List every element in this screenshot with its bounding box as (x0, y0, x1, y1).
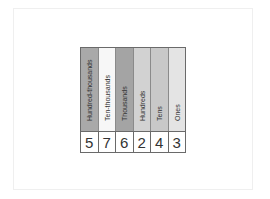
column-ones: Ones (169, 48, 186, 131)
digit-ones: 3 (169, 132, 186, 152)
column-hundred-thousands: Hundred-thousands (81, 48, 99, 131)
digit-thousands: 6 (116, 132, 134, 152)
digit-ten-thousands: 7 (99, 132, 117, 152)
column-ten-thousands: Ten-thousands (99, 48, 117, 131)
place-value-header-row: Hundred-thousands Ten-thousands Thousand… (81, 48, 185, 132)
column-label: Thousands (121, 86, 128, 121)
digit-tens: 4 (151, 132, 169, 152)
digit-hundreds: 2 (134, 132, 152, 152)
column-label: Tens (156, 106, 163, 121)
column-label: Ones (173, 104, 180, 121)
column-label: Hundreds (138, 91, 145, 121)
digit-row: 5 7 6 2 4 3 (81, 132, 185, 152)
place-value-chart: Hundred-thousands Ten-thousands Thousand… (80, 47, 186, 153)
digit-hundred-thousands: 5 (81, 132, 99, 152)
column-label: Hundred-thousands (86, 60, 93, 122)
column-hundreds: Hundreds (134, 48, 152, 131)
column-label: Ten-thousands (103, 75, 110, 121)
column-thousands: Thousands (116, 48, 134, 131)
column-tens: Tens (151, 48, 169, 131)
